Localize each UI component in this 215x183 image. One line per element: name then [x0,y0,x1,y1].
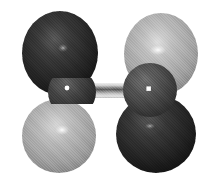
lobe-bottom-left-specular [55,125,69,135]
lobe-bottom-left [22,99,96,173]
lobe-top-left-specular [58,44,68,52]
lobe-bottom-right-specular [145,123,155,129]
molecular-orbital-figure: Pi antibonding molecular orbital [0,0,215,183]
orbital-render-canvas [0,0,215,183]
atom-right-specular [146,86,151,91]
lobe-top-right-specular [150,45,166,55]
atom-left-specular [65,86,70,91]
